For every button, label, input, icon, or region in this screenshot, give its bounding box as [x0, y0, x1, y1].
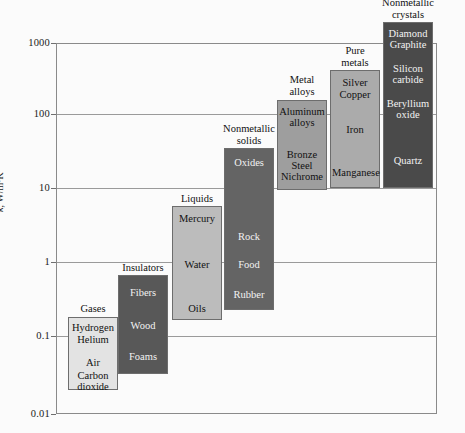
band-item-label: Nichrome	[278, 171, 326, 183]
band-item-label: Wood	[119, 320, 167, 332]
band-item-list: SilverCopperIronManganese	[331, 71, 379, 187]
y-tick-label-0.1: 0.1	[2, 330, 50, 341]
band-item-list: FibersWoodFoams	[119, 276, 167, 373]
y-axis-symbol: k	[0, 208, 5, 212]
band-item-label: Foams	[119, 351, 167, 363]
band-item-list: MercuryWaterOils	[173, 207, 221, 319]
band-item-label: oxide	[384, 109, 432, 121]
y-tick-label-1: 1	[2, 256, 50, 267]
band-item-label: Silicon	[384, 63, 432, 75]
y-tick-label-100: 100	[2, 108, 50, 119]
band-item-label: Iron	[331, 124, 379, 136]
material-band-gases[interactable]: HydrogenHeliumAirCarbondioxide	[68, 317, 118, 390]
material-band-liquids[interactable]: MercuryWaterOils	[172, 206, 222, 320]
caption-line: alloys	[268, 86, 336, 98]
caption-line: solids	[215, 135, 283, 147]
band-item-label: Fibers	[119, 287, 167, 299]
band-item-list: DiamondGraphiteSiliconcarbideBerylliumox…	[384, 23, 432, 187]
y-tick-label-10: 10	[2, 182, 50, 193]
band-item-label: carbide	[384, 74, 432, 86]
material-band-nonmetallic-solids[interactable]: OxidesRockFoodRubber	[224, 148, 274, 310]
y-axis-title: k, W/m·K	[0, 92, 5, 212]
caption-line: Nonmetallic	[215, 123, 283, 135]
caption-line: crystals	[374, 9, 442, 21]
band-item-label: Bronze	[278, 149, 326, 161]
tick-mark-0.01	[51, 414, 56, 415]
caption-line: metals	[321, 57, 389, 69]
band-caption-liquids: Liquids	[163, 193, 231, 205]
material-band-insulators[interactable]: FibersWoodFoams	[118, 275, 168, 374]
band-item-label: Oxides	[225, 157, 273, 169]
material-band-metal-alloys[interactable]: AluminumalloysBronzeSteelNichrome	[277, 100, 327, 190]
band-item-label: Rock	[225, 231, 273, 243]
band-item-list: HydrogenHeliumAirCarbondioxide	[69, 318, 117, 389]
band-caption-insulators: Insulators	[109, 262, 177, 274]
band-caption-nonmetallic-solids: Nonmetallicsolids	[215, 123, 283, 146]
band-item-label: Water	[173, 259, 221, 271]
band-item-label: Steel	[278, 160, 326, 172]
band-item-list: AluminumalloysBronzeSteelNichrome	[278, 101, 326, 189]
material-band-pure-metals[interactable]: SilverCopperIronManganese	[330, 70, 380, 188]
band-item-label: Diamond	[384, 28, 432, 40]
band-item-label: Air	[69, 357, 117, 369]
band-item-label: Aluminum	[278, 106, 326, 118]
band-item-label: Graphite	[384, 39, 432, 51]
band-item-label: Food	[225, 259, 273, 271]
band-item-label: Oils	[173, 303, 221, 315]
band-item-label: Helium	[69, 334, 117, 346]
band-item-label: Beryllium	[384, 98, 432, 110]
thermal-conductivity-chart: 10001001010.10.01 k, W/m·K GasesHydrogen…	[0, 0, 465, 433]
caption-line: Pure	[321, 45, 389, 57]
caption-line: Nonmetallic	[374, 0, 442, 9]
y-axis-units: , W/m·K	[0, 172, 5, 207]
band-caption-pure-metals: Puremetals	[321, 45, 389, 68]
material-band-nonmetallic-crystals[interactable]: DiamondGraphiteSiliconcarbideBerylliumox…	[383, 22, 433, 188]
band-item-label: Copper	[331, 89, 379, 101]
band-item-label: Hydrogen	[69, 322, 117, 334]
y-tick-label-0.01: 0.01	[2, 408, 50, 419]
caption-line: Metal	[268, 74, 336, 86]
band-item-label: Manganese	[331, 167, 379, 179]
band-item-label: Mercury	[173, 213, 221, 225]
band-item-label: Silver	[331, 77, 379, 89]
band-caption-gases: Gases	[59, 303, 127, 315]
band-caption-nonmetallic-crystals: Nonmetalliccrystals	[374, 0, 442, 20]
band-item-label: Quartz	[384, 155, 432, 167]
band-item-label: dioxide	[69, 381, 117, 393]
band-item-label: Carbon	[69, 370, 117, 382]
caption-line: Insulators	[109, 262, 177, 274]
band-caption-metal-alloys: Metalalloys	[268, 74, 336, 97]
y-tick-label-1000: 1000	[2, 37, 50, 48]
band-item-label: alloys	[278, 117, 326, 129]
band-item-list: OxidesRockFoodRubber	[225, 149, 273, 309]
band-item-label: Rubber	[225, 289, 273, 301]
caption-line: Gases	[59, 303, 127, 315]
caption-line: Liquids	[163, 193, 231, 205]
